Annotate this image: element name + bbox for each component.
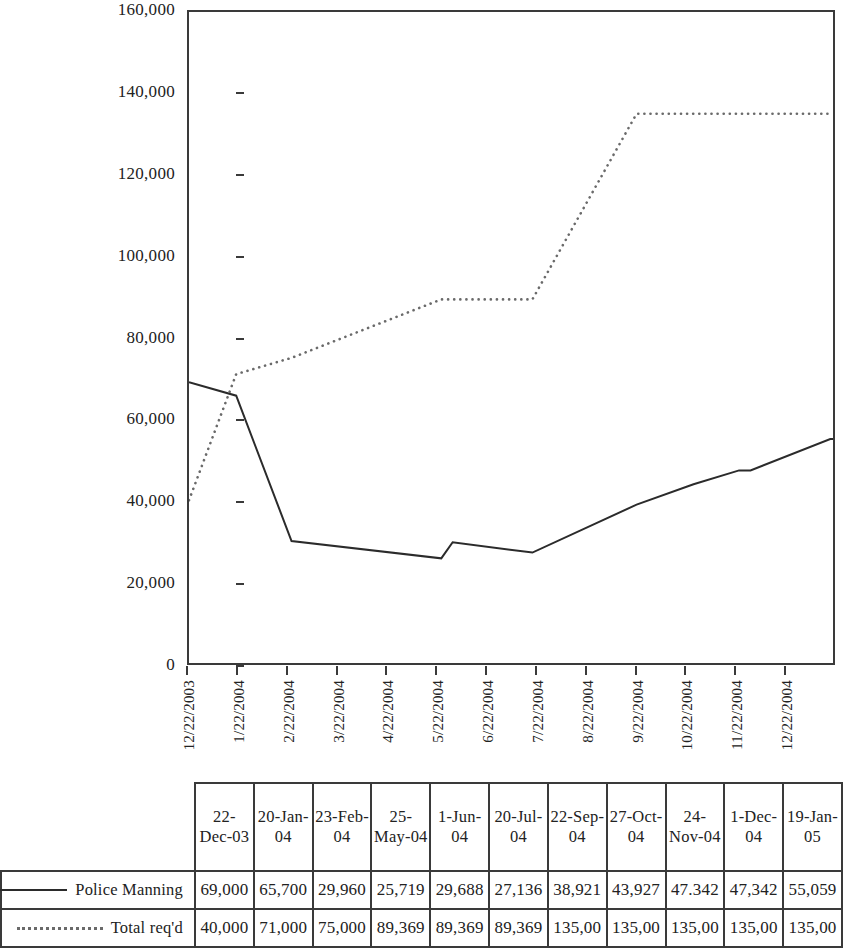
table-cell: 25,719 [371,871,430,909]
table-cell: 71,000 [254,909,313,947]
table-cell: 89,369 [430,909,489,947]
x-axis-tick-label: 2/22/2004 [282,680,297,772]
x-axis-tick-mark [236,666,238,675]
table-column-header: 24-Nov-04 [666,783,725,871]
y-axis-tick-label: 140,000 [55,83,175,100]
x-axis-tick-mark [385,666,387,675]
plot-area [187,10,835,665]
x-axis-tick-label: 4/22/2004 [381,680,396,772]
table-cell: 29,960 [313,871,372,909]
x-axis-tick-mark [734,666,736,675]
table-column-header: 27-Oct-04 [607,783,666,871]
data-table: 22-Dec-0320-Jan-0423-Feb-0425-May-041-Ju… [0,782,843,948]
x-axis-tick-label: 6/22/2004 [481,680,496,772]
table-cell: 55,059 [783,871,842,909]
x-axis-tick-mark [435,666,437,675]
legend-item-1: Police Manning [1,871,195,909]
x-axis-tick-label: 1/22/2004 [232,680,247,772]
data-table-container: 22-Dec-0320-Jan-0423-Feb-0425-May-041-Ju… [0,782,843,948]
series-line-1 [189,382,833,558]
legend-item-2: Total req'd [1,909,195,947]
table-column-header: 20-Jan-04 [254,783,313,871]
x-axis-tick-label: 12/22/2004 [780,680,795,772]
y-axis-tick-label: 80,000 [55,329,175,346]
x-axis-tick-label: 11/22/2004 [730,680,745,772]
x-axis-tick-label: 8/22/2004 [581,680,596,772]
x-axis-tick-mark [635,666,637,675]
x-axis-tick-label: 12/22/2003 [182,680,197,772]
table-cell: 65,700 [254,871,313,909]
y-axis-tick-label: 100,000 [55,247,175,264]
table-column-header: 22-Dec-03 [195,783,254,871]
table-cell: 135,00 [548,909,607,947]
solid-line-icon [0,889,67,891]
table-cell: 29,688 [430,871,489,909]
table-cell: 75,000 [313,909,372,947]
table-column-header: 1-Jun-04 [430,783,489,871]
y-axis-tick-label: 60,000 [55,410,175,427]
y-axis-tick-label: 40,000 [55,492,175,509]
legend-label: Police Manning [75,880,183,900]
table-column-header: 20-Jul-04 [489,783,548,871]
dotted-line-icon [17,927,103,930]
x-axis-tick-mark [186,666,188,675]
y-axis-tick-label: 20,000 [55,574,175,591]
table-cell: 43,927 [607,871,666,909]
table-column-header: 25-May-04 [371,783,430,871]
x-axis-tick-mark [336,666,338,675]
table-cell: 135,00 [607,909,666,947]
table-cell: 47,342 [724,871,783,909]
x-axis-tick-label: 3/22/2004 [332,680,347,772]
table-column-header: 23-Feb-04 [313,783,372,871]
x-axis-tick-mark [535,666,537,675]
x-axis-tick-mark [286,666,288,675]
table-cell: 135,00 [666,909,725,947]
table-row: Total req'd40,00071,00075,00089,36989,36… [1,909,842,947]
y-axis-tick-label: 160,000 [55,1,175,18]
table-cell: 27,136 [489,871,548,909]
plot-lines [189,12,833,663]
legend-header-spacer [1,783,195,871]
series-line-2 [189,114,833,501]
table-body: 22-Dec-0320-Jan-0423-Feb-0425-May-041-Ju… [1,783,842,947]
x-axis-tick-mark [585,666,587,675]
table-column-header: 22-Sep-04 [548,783,607,871]
x-axis-tick-mark [684,666,686,675]
y-axis: 020,00040,00060,00080,000100,000120,0001… [55,0,175,675]
table-column-header: 1-Dec-04 [724,783,783,871]
table-cell: 135,00 [783,909,842,947]
chart-container: 020,00040,00060,00080,000100,000120,0001… [0,0,843,780]
x-axis-tick-label: 10/22/2004 [680,680,695,772]
table-cell: 135,00 [724,909,783,947]
table-cell: 69,000 [195,871,254,909]
x-axis-tick-label: 9/22/2004 [631,680,646,772]
table-column-header: 19-Jan-05 [783,783,842,871]
x-axis: 12/22/20031/22/20042/22/20043/22/20044/2… [187,666,835,776]
x-axis-tick-mark [784,666,786,675]
y-axis-tick-label: 120,000 [55,165,175,182]
table-cell: 89,369 [371,909,430,947]
x-axis-tick-mark [485,666,487,675]
table-cell: 38,921 [548,871,607,909]
table-row: Police Manning69,00065,70029,96025,71929… [1,871,842,909]
table-cell: 40,000 [195,909,254,947]
table-cell: 47.342 [666,871,725,909]
table-header-row: 22-Dec-0320-Jan-0423-Feb-0425-May-041-Ju… [1,783,842,871]
x-axis-tick-label: 5/22/2004 [431,680,446,772]
y-axis-tick-label: 0 [55,656,175,673]
x-axis-tick-label: 7/22/2004 [531,680,546,772]
legend-label: Total req'd [111,918,183,938]
table-cell: 89,369 [489,909,548,947]
